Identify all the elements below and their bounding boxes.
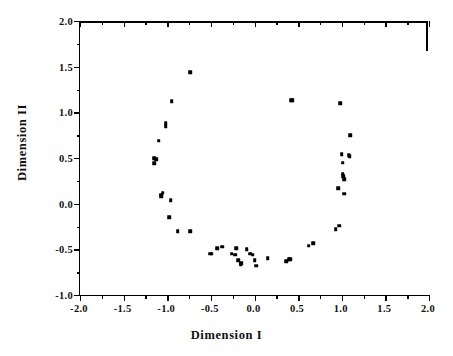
- y-tick-major: [74, 67, 80, 68]
- x-axis-title: Dimension I: [0, 328, 453, 343]
- x-tick-label: 1.5: [377, 303, 391, 314]
- data-point: [152, 162, 156, 166]
- data-point: [338, 101, 342, 105]
- data-point: [311, 241, 315, 245]
- data-point: [169, 198, 173, 202]
- scatter-plot-figure: Dimension I Dimension II -2.0-1.5-1.0-0.…: [0, 0, 453, 356]
- y-tick-minor: [77, 181, 81, 182]
- x-tick-major: [385, 295, 386, 301]
- data-point: [164, 124, 168, 128]
- x-tick-top: [429, 21, 430, 27]
- data-point: [188, 70, 192, 74]
- data-point: [341, 161, 345, 165]
- y-tick-label: 0.0: [31, 198, 73, 209]
- x-tick-label: 0.5: [290, 303, 304, 314]
- data-point: [234, 253, 238, 257]
- x-tick-label: 2.0: [421, 303, 435, 314]
- data-point: [343, 177, 347, 181]
- y-tick-major: [74, 295, 80, 296]
- x-tick-minor: [320, 295, 321, 299]
- data-point: [240, 261, 244, 265]
- y-tick-minor: [77, 227, 81, 228]
- y-tick-label: -1.0: [31, 290, 73, 301]
- data-point: [167, 216, 171, 220]
- data-point: [343, 192, 347, 196]
- x-tick-label: 0.0: [246, 303, 260, 314]
- data-point: [188, 229, 192, 233]
- x-tick-minor: [102, 295, 103, 299]
- data-point: [220, 245, 224, 249]
- data-point: [254, 264, 258, 268]
- x-tick-label: -0.5: [201, 303, 219, 314]
- data-point: [215, 247, 219, 251]
- data-point: [251, 253, 255, 257]
- data-point: [334, 227, 338, 231]
- data-point: [176, 229, 180, 233]
- y-tick-major: [74, 158, 80, 159]
- data-point: [336, 186, 340, 190]
- y-tick-minor: [77, 135, 81, 136]
- y-tick-minor: [77, 90, 81, 91]
- data-point: [157, 139, 161, 143]
- x-tick-major: [429, 295, 430, 301]
- data-point: [253, 258, 257, 262]
- x-tick-label: -2.0: [70, 303, 88, 314]
- data-point: [170, 100, 174, 104]
- y-tick-label: 2.0: [31, 16, 73, 27]
- y-tick-label: 1.0: [31, 107, 73, 118]
- y-tick-minor: [77, 44, 81, 45]
- data-point: [349, 133, 353, 137]
- x-tick-minor: [233, 295, 234, 299]
- data-point: [348, 154, 352, 158]
- y-tick-major: [74, 249, 80, 250]
- data-point: [307, 244, 311, 248]
- plot-data-canvas: [80, 21, 429, 295]
- right-axis-stub: [426, 21, 428, 51]
- data-point: [245, 248, 249, 252]
- x-tick-major: [167, 295, 168, 301]
- data-point: [266, 257, 270, 261]
- y-tick-label: 1.5: [31, 61, 73, 72]
- data-point: [290, 99, 294, 103]
- x-tick-major: [124, 295, 125, 301]
- data-point: [340, 153, 344, 157]
- x-tick-major: [255, 295, 256, 301]
- x-tick-major: [342, 295, 343, 301]
- x-tick-minor: [364, 295, 365, 299]
- y-tick-label: 0.5: [31, 153, 73, 164]
- y-axis-title: Dimension II: [15, 83, 30, 203]
- x-tick-major: [298, 295, 299, 301]
- data-point: [234, 247, 238, 251]
- x-tick-minor: [276, 295, 277, 299]
- x-tick-label: -1.5: [114, 303, 132, 314]
- top-axis-line: [79, 21, 428, 23]
- x-tick-minor: [407, 295, 408, 299]
- x-tick-major: [211, 295, 212, 301]
- x-tick-major: [80, 295, 81, 301]
- x-tick-minor: [189, 295, 190, 299]
- plot-axes-frame: [79, 21, 429, 296]
- data-point: [159, 195, 163, 199]
- x-tick-label: -1.0: [157, 303, 175, 314]
- y-tick-major: [74, 112, 80, 113]
- x-tick-minor: [145, 295, 146, 299]
- x-tick-label: 1.0: [334, 303, 348, 314]
- data-point: [154, 157, 158, 161]
- data-point: [210, 252, 214, 256]
- data-point: [288, 258, 292, 262]
- y-tick-major: [74, 204, 80, 205]
- y-tick-minor: [77, 272, 81, 273]
- y-tick-label: -0.5: [31, 244, 73, 255]
- data-point: [337, 224, 341, 228]
